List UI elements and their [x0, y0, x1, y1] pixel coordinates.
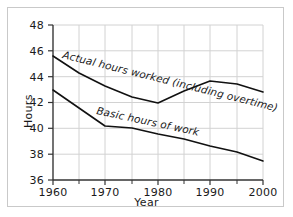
y-tick-label-48: 48 — [18, 19, 44, 32]
y-axis-title: Hours — [22, 94, 35, 128]
y-tick-label-46: 46 — [18, 45, 44, 58]
y-tick-label-44: 44 — [18, 71, 44, 84]
x-axis-title: Year — [0, 196, 293, 209]
x-axis-ticks — [53, 180, 263, 185]
y-tick-label-38: 38 — [18, 148, 44, 161]
chart-screenshot: Actual hours worked (including overtime)… — [0, 0, 293, 217]
curve-label-basic-hours: Basic hours of work — [96, 104, 202, 138]
y-axis-ticks — [48, 25, 53, 180]
